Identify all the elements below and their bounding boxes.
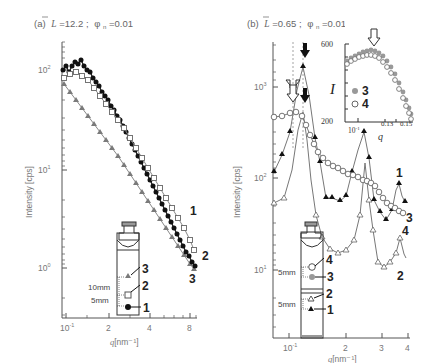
xtick-label: 4 — [405, 343, 410, 353]
panel-a-xlabel: q[nm⁻¹] — [110, 337, 139, 347]
xtick-label: 8 — [187, 323, 192, 333]
series-label-1: 1 — [396, 166, 403, 180]
panel-b-ylabel: Intensity [cps] — [232, 166, 242, 218]
inset-ylabel: I — [329, 81, 336, 97]
inset-ytick: 600 — [321, 40, 333, 49]
panel-a: (a) L =12.2 ; φ n =0.01 — [24, 17, 209, 347]
figure: (a) L =12.2 ; φ n =0.01 — [0, 0, 439, 363]
legend-label-4: 4 — [362, 97, 369, 111]
dist-label-5mm: 5mm — [278, 300, 296, 309]
cell-label-3: 3 — [327, 270, 334, 284]
ytick-label: 103 — [254, 81, 267, 92]
cell-label-2: 2 — [142, 279, 149, 293]
xtick-label: 10-1 — [60, 322, 74, 333]
ytick-label: 102 — [38, 64, 51, 75]
inset-plot: 600 200 10-1 0.13 0.15 I q 3 4 — [321, 18, 417, 142]
cell-label-2: 2 — [326, 287, 333, 301]
marker-3 — [125, 273, 131, 278]
series-label-2: 2 — [397, 269, 404, 283]
inset-ytick: 200 — [321, 117, 333, 126]
dist-label-5mm: 5mm — [91, 296, 109, 305]
series-a-3 — [61, 81, 197, 271]
series-b-2 — [271, 112, 406, 269]
cell-markers-a — [117, 267, 141, 310]
panel-b-title: (b) L =0.65 ; φ n =0.017 — [247, 18, 351, 31]
inset-xtick: 10-1 — [348, 126, 360, 135]
series-a-1 — [61, 58, 198, 269]
legend-label-3: 3 — [362, 84, 369, 98]
inset-xlabel: q — [378, 131, 383, 142]
cell-label-1: 1 — [143, 301, 150, 315]
marker-1 — [125, 304, 131, 310]
cell-label-3: 3 — [142, 262, 149, 276]
ytick-label: 101 — [254, 264, 267, 275]
panel-b-xlabel: q[nm⁻¹] — [328, 354, 357, 363]
series-label-3: 3 — [406, 211, 413, 225]
xtick-label: 2 — [106, 323, 111, 333]
filled-arrow-icon — [300, 43, 310, 58]
xtick-label: 3 — [379, 343, 384, 353]
cell-label-4: 4 — [326, 253, 333, 267]
xtick-label: 10-1 — [283, 342, 297, 353]
series-label-1: 1 — [190, 204, 197, 218]
legend-marker-4 — [352, 101, 358, 107]
legend-marker-3 — [352, 88, 358, 94]
panel-a-title: (a) L =12.2 ; φ n =0.01 — [34, 18, 133, 31]
series-label-2: 2 — [202, 249, 209, 263]
dist-label-5mm: 5mm — [278, 268, 296, 277]
xtick-label: 2 — [343, 343, 348, 353]
ytick-label: 102 — [254, 172, 267, 183]
cell-markers-b — [301, 258, 326, 311]
dist-label-10mm: 10mm — [88, 283, 111, 292]
panel-a-ylabel: Intensity [cps] — [24, 166, 34, 218]
filled-arrow-icon — [300, 88, 310, 103]
panel-b: (b) L =0.65 ; φ n =0.017 — [232, 17, 417, 363]
ytick-label: 100 — [38, 262, 51, 273]
cell-label-1: 1 — [327, 303, 334, 317]
cell-diagram-a — [117, 222, 139, 315]
series-label-4: 4 — [402, 224, 409, 238]
series-label-3: 3 — [189, 272, 196, 286]
ytick-label: 101 — [38, 164, 51, 175]
xtick-label: 4 — [147, 323, 152, 333]
inset-xtick: 0.13 — [381, 120, 394, 128]
marker-2 — [125, 292, 131, 298]
